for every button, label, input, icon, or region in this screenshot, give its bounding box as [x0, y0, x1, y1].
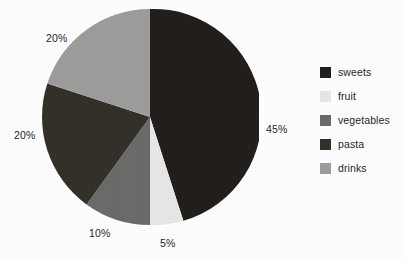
pie-chart-figure: 45% 5% 10% 20% 20% sweets fruit vegetabl… [0, 0, 405, 261]
pie-chart-graphic [41, 8, 259, 226]
legend-swatch-sweets [320, 67, 331, 78]
legend-item-fruit[interactable]: fruit [320, 84, 405, 108]
legend-swatch-vegetables [320, 115, 331, 126]
slice-value-fruit: 5% [160, 238, 176, 249]
legend-item-sweets[interactable]: sweets [320, 60, 405, 84]
legend-label-pasta: pasta [338, 139, 364, 150]
slice-value-drinks: 20% [46, 33, 68, 44]
legend-label-drinks: drinks [338, 163, 367, 174]
legend-item-vegetables[interactable]: vegetables [320, 108, 405, 132]
slice-value-pasta: 20% [14, 130, 36, 141]
legend-item-pasta[interactable]: pasta [320, 132, 405, 156]
legend-item-drinks[interactable]: drinks [320, 156, 405, 180]
legend-label-vegetables: vegetables [338, 115, 390, 126]
legend-swatch-drinks [320, 163, 331, 174]
legend-label-fruit: fruit [338, 91, 356, 102]
slice-value-vegetables: 10% [89, 228, 111, 239]
legend-swatch-pasta [320, 139, 331, 150]
legend-swatch-fruit [320, 91, 331, 102]
legend-label-sweets: sweets [338, 67, 371, 78]
chart-legend: sweets fruit vegetables pasta drinks [320, 60, 405, 180]
slice-value-sweets: 45% [266, 124, 288, 135]
pie-svg [41, 8, 259, 226]
